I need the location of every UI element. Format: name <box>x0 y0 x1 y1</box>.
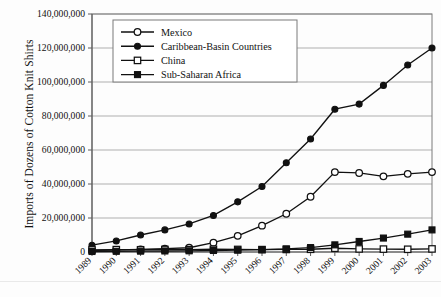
legend-label: Caribbean-Basin Countries <box>161 41 272 52</box>
data-point <box>308 245 314 251</box>
x-tick-label: 1995 <box>218 254 239 275</box>
y-tick-marks-group <box>88 14 92 252</box>
x-tick-label: 2002 <box>388 254 409 275</box>
data-point <box>162 248 168 254</box>
data-point <box>259 184 265 190</box>
line-chart-svg: 020,000,00040,000,00060,000,00080,000,00… <box>0 0 441 297</box>
x-tick-label: 1994 <box>193 254 214 275</box>
data-point <box>113 238 119 244</box>
x-tick-label: 1989 <box>72 254 93 275</box>
data-point <box>429 169 436 176</box>
data-point <box>356 101 362 107</box>
y-tick-label: 40,000,000 <box>42 178 85 189</box>
data-point <box>429 227 435 233</box>
x-tick-label: 2001 <box>363 254 384 275</box>
chart-legend: MexicoCaribbean-Basin CountriesChinaSub-… <box>113 20 297 82</box>
data-point <box>356 238 362 244</box>
data-point <box>356 246 362 252</box>
data-point <box>332 169 339 176</box>
y-tick-label: 140,000,000 <box>37 8 85 19</box>
data-point <box>404 171 411 178</box>
data-point <box>235 199 241 205</box>
legend-label: Mexico <box>161 27 192 38</box>
data-point <box>405 231 411 237</box>
data-point <box>259 222 266 229</box>
y-tick-label: 100,000,000 <box>37 76 85 87</box>
data-point <box>235 247 241 253</box>
legend-marker <box>135 72 141 78</box>
legend-marker <box>134 57 140 63</box>
data-point <box>332 242 338 248</box>
y-tick-labels-group: 020,000,00040,000,00060,000,00080,000,00… <box>37 8 85 257</box>
data-point <box>283 160 289 166</box>
x-tick-label: 1997 <box>266 254 287 275</box>
legend-label: China <box>161 55 186 66</box>
data-point <box>162 227 168 233</box>
data-point <box>210 239 217 246</box>
x-tick-label: 2003 <box>412 254 433 275</box>
x-tick-labels-group: 1989199019911992199319941995199619971998… <box>72 254 433 275</box>
data-point <box>405 62 411 68</box>
data-point <box>89 248 95 254</box>
data-point <box>380 173 387 180</box>
x-tick-label: 1993 <box>169 254 190 275</box>
data-point <box>113 248 119 254</box>
x-tick-label: 1996 <box>242 254 263 275</box>
data-point <box>380 235 386 241</box>
data-point <box>234 233 241 240</box>
data-point <box>308 136 314 142</box>
data-point <box>138 248 144 254</box>
x-tick-label: 1999 <box>315 254 336 275</box>
x-tick-label: 2000 <box>339 254 360 275</box>
data-point <box>283 246 289 252</box>
data-point <box>138 232 144 238</box>
data-point <box>283 210 290 217</box>
data-point <box>429 45 435 51</box>
y-tick-label: 120,000,000 <box>37 42 85 53</box>
x-tick-label: 1998 <box>291 254 312 275</box>
data-point <box>380 82 386 88</box>
y-tick-label: 20,000,000 <box>42 212 85 223</box>
data-point <box>380 246 386 252</box>
y-tick-label: 80,000,000 <box>42 110 85 121</box>
data-point <box>186 221 192 227</box>
data-point <box>210 247 216 253</box>
x-tick-label: 1992 <box>145 254 166 275</box>
legend-marker <box>134 29 141 36</box>
data-point <box>259 247 265 253</box>
data-point <box>210 212 216 218</box>
data-point <box>429 246 435 252</box>
legend-marker <box>135 43 141 49</box>
chart-figure: Imports of Dozens of Cotton Knit Shirts … <box>0 0 441 297</box>
data-point <box>332 106 338 112</box>
x-tick-label: 1991 <box>121 254 142 275</box>
legend-label: Sub-Saharan Africa <box>161 69 242 80</box>
y-tick-label: 60,000,000 <box>42 144 85 155</box>
data-point <box>307 193 314 200</box>
data-point <box>405 246 411 252</box>
x-tick-label: 1990 <box>96 254 117 275</box>
data-point <box>356 170 363 177</box>
data-point <box>186 248 192 254</box>
